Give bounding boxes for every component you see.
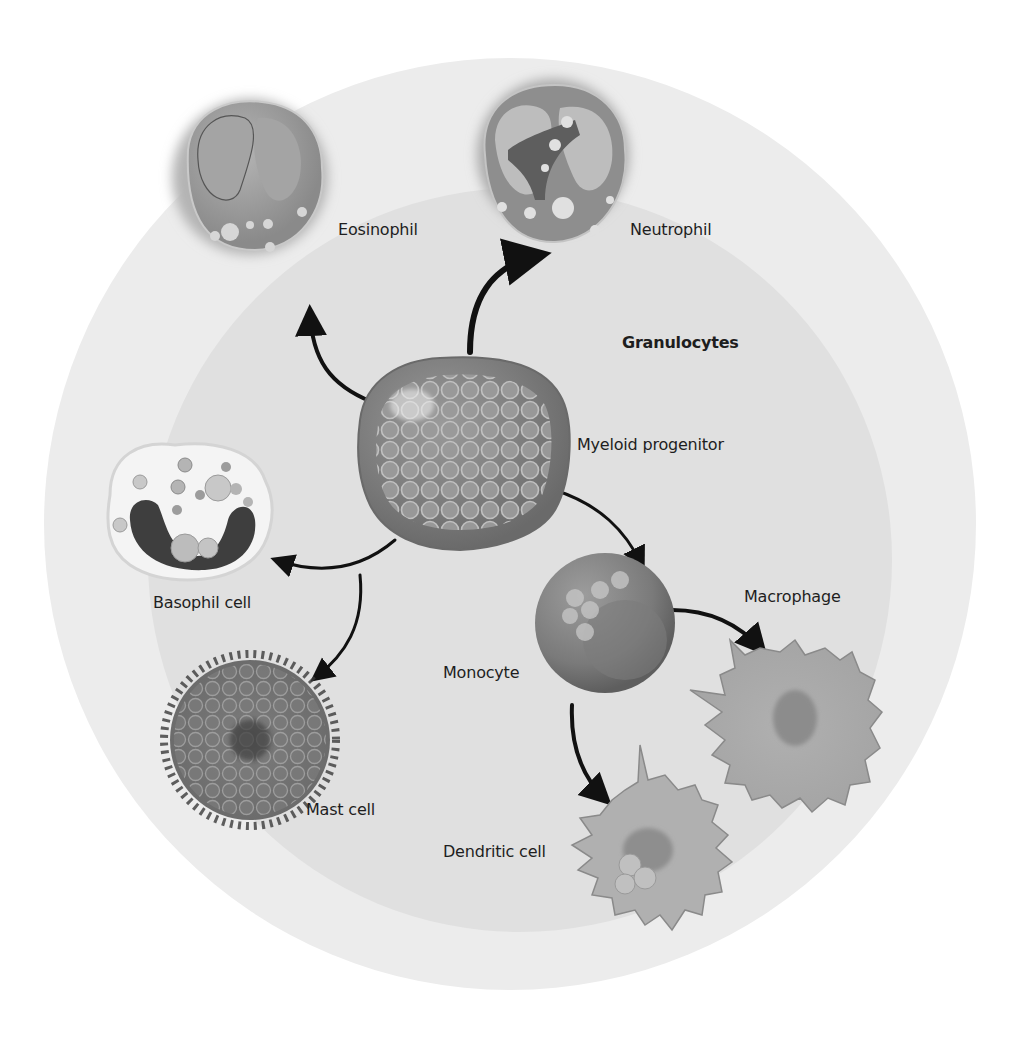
eosinophil-label: Eosinophil <box>338 220 418 239</box>
myeloid-progenitor-cell <box>358 357 570 550</box>
monocyte-label: Monocyte <box>443 663 519 682</box>
eosinophil-cell <box>172 99 328 255</box>
mast-cell-label: Mast cell <box>306 800 375 819</box>
dendritic-cell-label: Dendritic cell <box>443 842 546 861</box>
inner-disc <box>148 188 892 932</box>
macrophage-label: Macrophage <box>744 587 841 606</box>
granulocytes-heading: Granulocytes <box>622 333 739 352</box>
basophil-label: Basophil cell <box>153 593 251 612</box>
diagram-canvas <box>0 0 1022 1055</box>
myeloid-progenitor-label: Myeloid progenitor <box>577 435 724 454</box>
basophil-cell <box>108 444 272 580</box>
neutrophil-label: Neutrophil <box>630 220 711 239</box>
monocyte-cell <box>535 553 675 693</box>
myeloid-lineage-diagram: Granulocytes Myeloid progenitor Eosinoph… <box>0 0 1022 1055</box>
